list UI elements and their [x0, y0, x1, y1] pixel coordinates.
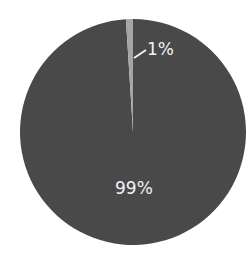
pie-slice-99pct — [20, 19, 246, 245]
pie-slices — [20, 19, 246, 245]
slice-label-large: 99% — [115, 178, 153, 198]
slice-label-small: 1% — [147, 39, 174, 59]
pie-chart: 1% 99% — [0, 0, 251, 263]
